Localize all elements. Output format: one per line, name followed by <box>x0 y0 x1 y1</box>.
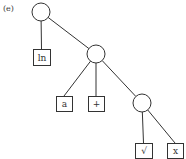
tree-edges <box>41 17 175 143</box>
operator-node <box>87 45 105 63</box>
expression-tree-diagram: (e) lna+√x <box>0 0 186 159</box>
tree-edge <box>64 61 91 96</box>
tree-edge <box>142 112 143 143</box>
tree-edge <box>48 17 89 48</box>
leaf-node: ln <box>34 50 51 66</box>
panel-label: (e) <box>3 4 14 13</box>
tree-edge <box>102 61 136 97</box>
leaf-label: a <box>62 99 68 109</box>
leaf-node: √ <box>136 144 153 159</box>
leaf-label: ln <box>38 53 47 63</box>
operator-node <box>133 94 151 112</box>
leaf-node: + <box>89 97 105 112</box>
leaf-label: √ <box>141 146 147 156</box>
tree-nodes: lna+√x <box>32 3 184 159</box>
tree-edge <box>148 110 175 143</box>
operator-node <box>32 3 50 21</box>
leaf-node: a <box>57 97 73 112</box>
leaf-node: x <box>168 144 184 159</box>
leaf-label: x <box>173 146 178 156</box>
leaf-label: + <box>93 99 101 109</box>
